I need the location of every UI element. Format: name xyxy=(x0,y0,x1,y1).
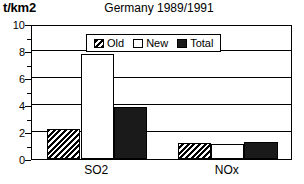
legend: OldNewTotal xyxy=(86,34,221,52)
y-tick-label-10: 10 xyxy=(13,20,25,31)
legend-swatch-old xyxy=(94,39,104,48)
legend-item-old: Old xyxy=(94,38,124,49)
bar-so2-old xyxy=(47,129,80,159)
bar-nox-new xyxy=(211,144,244,159)
y-axis: 0246810 xyxy=(0,0,31,184)
legend-item-total: Total xyxy=(177,38,213,49)
legend-label-old: Old xyxy=(107,38,124,49)
bar-so2-new xyxy=(81,54,114,159)
chart-title: Germany 1989/1991 xyxy=(0,1,304,15)
legend-label-new: New xyxy=(146,38,168,49)
y-tick-major-0 xyxy=(25,160,31,161)
legend-label-total: Total xyxy=(190,38,213,49)
x-tick-label-so2: SO2 xyxy=(84,163,108,177)
bar-nox-total xyxy=(244,142,277,159)
x-axis: SO2NOx xyxy=(31,163,292,183)
legend-swatch-new xyxy=(133,39,143,48)
bar-nox-old xyxy=(178,143,211,159)
bar-so2-total xyxy=(114,107,147,159)
legend-item-new: New xyxy=(133,38,168,49)
legend-swatch-total xyxy=(177,39,187,48)
x-tick-label-nox: NOx xyxy=(215,163,239,177)
